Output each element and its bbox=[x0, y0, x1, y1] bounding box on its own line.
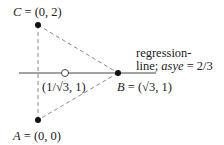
point-b bbox=[115, 70, 121, 76]
label-m: (1/√3, 1) bbox=[42, 80, 86, 94]
regression-label-line1: regression- bbox=[136, 46, 192, 60]
diagram-canvas: C = (0, 2) A = (0, 0) B = (√3, 1) (1/√3,… bbox=[0, 0, 224, 145]
label-a: A = (0, 0) bbox=[12, 129, 61, 143]
point-m-open bbox=[62, 70, 69, 77]
edge-c-b bbox=[38, 25, 118, 73]
regression-label-asye: asye bbox=[161, 59, 184, 73]
label-a-coords: = (0, 0) bbox=[21, 129, 61, 143]
point-a bbox=[35, 117, 41, 123]
point-c bbox=[35, 22, 41, 28]
label-b: B = (√3, 1) bbox=[117, 80, 172, 94]
regression-label-line2: line; asye = 2/3 bbox=[136, 59, 213, 73]
regression-label-suffix: = 2/3 bbox=[184, 59, 213, 73]
label-c: C = (0, 2) bbox=[13, 5, 62, 19]
label-c-coords: = (0, 2) bbox=[21, 5, 61, 19]
label-a-name: A bbox=[12, 129, 21, 143]
regression-label-prefix: line; bbox=[136, 59, 161, 73]
label-b-coords: = (√3, 1) bbox=[125, 80, 172, 94]
